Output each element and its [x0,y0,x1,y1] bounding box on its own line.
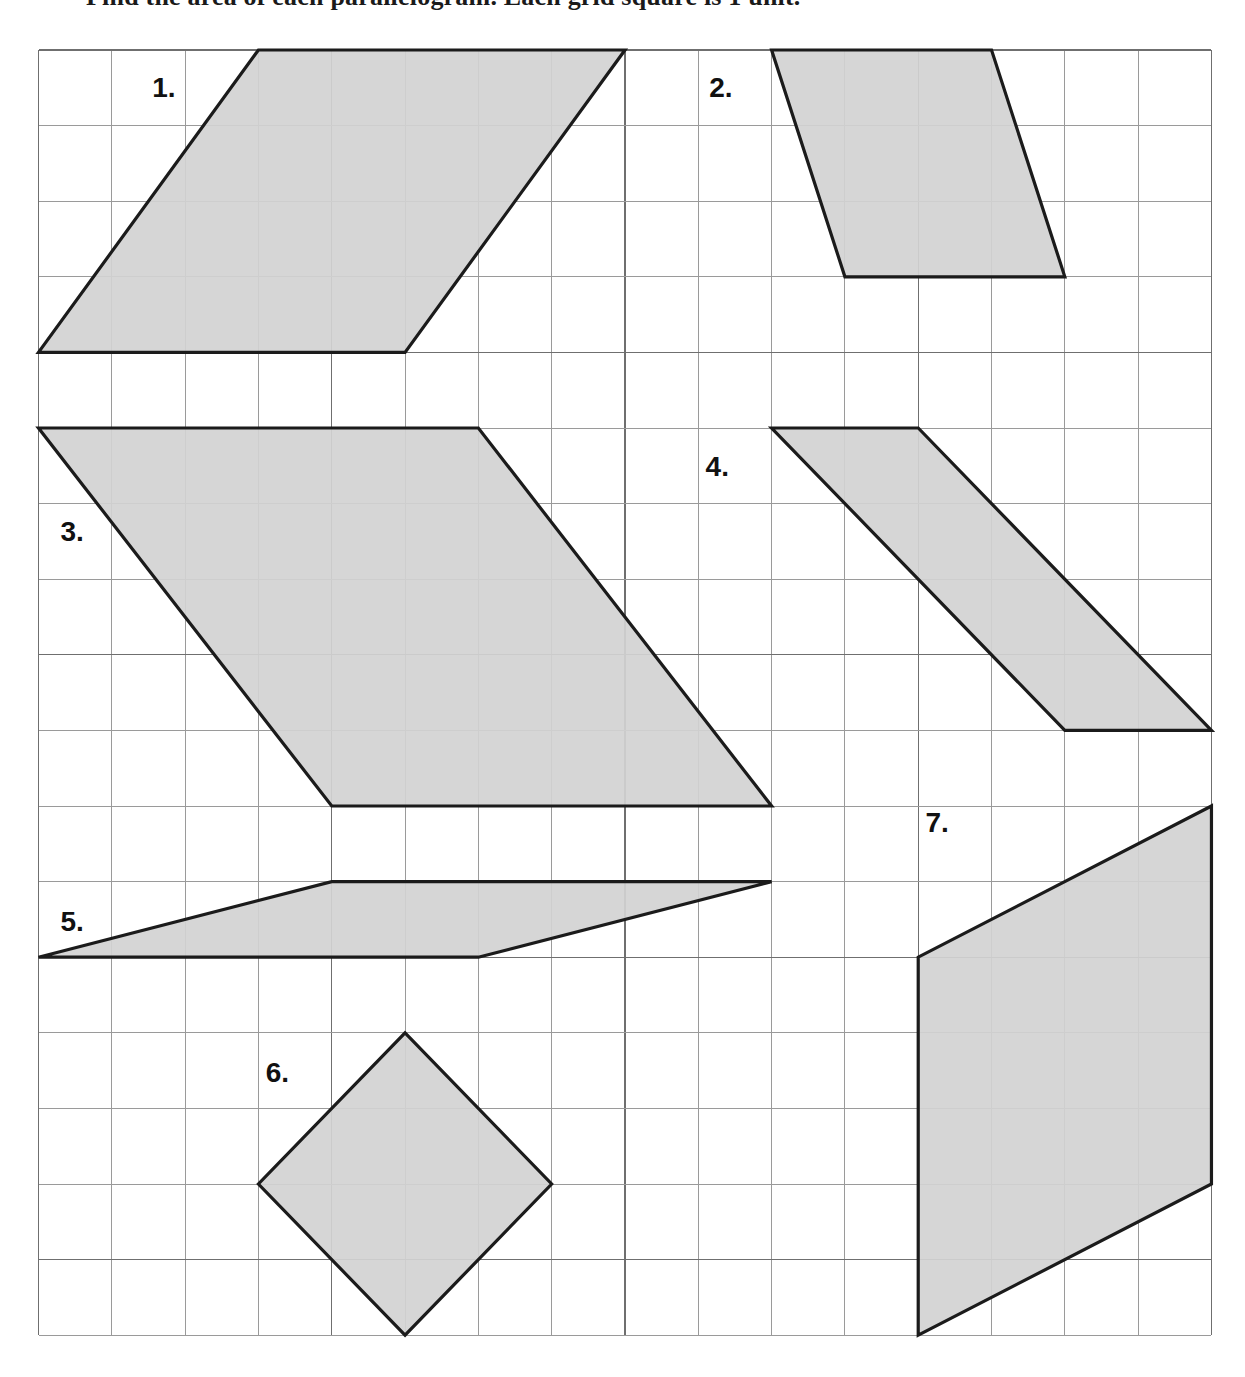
shape-number-label-2: 2. [709,72,732,103]
shape-number-label-1: 1. [152,72,175,103]
shape-7-parallelogram [918,806,1211,1335]
shape-number-label-6: 6. [266,1057,289,1088]
shape-5-parallelogram [39,882,772,958]
shape-number-label-5: 5. [60,906,83,937]
shape-number-label-3: 3. [60,516,83,547]
shape-number-label-7: 7. [926,807,949,838]
shape-number-label-4: 4. [706,451,729,482]
shape-2-parallelogram [772,50,1065,277]
parallelogram-grid-figure: 1.2.3.4.5.6.7. [0,0,1245,1377]
shape-6-rhombus [258,1033,551,1335]
worksheet-page: Find the area of each parallelogram. Eac… [0,0,1245,1377]
shape-3-parallelogram [39,428,772,806]
